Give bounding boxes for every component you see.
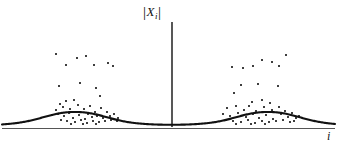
scatter-point xyxy=(252,65,254,67)
y-axis-label: |Xi| xyxy=(143,5,162,21)
scatter-point xyxy=(69,108,71,110)
scatter-point xyxy=(65,100,67,102)
scatter-point xyxy=(261,59,263,61)
scatter-point xyxy=(63,115,65,117)
scatter-point xyxy=(248,105,250,107)
scatter-point xyxy=(278,65,280,67)
scatter-point xyxy=(298,115,300,117)
scatter-point xyxy=(59,103,61,105)
scatter-point xyxy=(287,116,289,118)
scatter-point xyxy=(113,113,115,115)
scatter-point xyxy=(229,115,231,117)
scatter-point xyxy=(232,120,234,122)
scatter-point xyxy=(280,113,282,115)
scatter-point xyxy=(94,111,96,113)
scatter-point xyxy=(66,120,68,122)
scatter-point xyxy=(100,107,102,109)
scatter-point xyxy=(225,119,227,121)
scatter-point xyxy=(55,109,57,111)
scatter-point xyxy=(251,101,253,103)
scatter-point xyxy=(226,107,228,109)
scatter-point xyxy=(242,67,244,69)
scatter-point xyxy=(240,121,242,123)
scatter-point xyxy=(112,65,114,67)
scatter-point xyxy=(269,102,271,104)
scatter-point xyxy=(73,99,75,101)
scatter-point xyxy=(74,121,76,123)
scatter-point xyxy=(271,109,273,111)
envelope-path xyxy=(2,112,335,125)
scatter-point xyxy=(95,123,97,125)
scatter-point xyxy=(95,87,97,89)
scatter-point xyxy=(76,57,78,59)
scatter-point xyxy=(261,120,263,122)
scatter-point xyxy=(83,108,85,110)
scatter-point xyxy=(117,117,119,119)
scatter-point xyxy=(268,121,270,123)
scatter-point xyxy=(89,105,91,107)
scatter-point xyxy=(265,114,267,116)
scatter-point xyxy=(58,85,60,87)
scatter-point xyxy=(85,55,87,57)
scatter-point xyxy=(237,112,239,114)
scatter-point xyxy=(86,122,88,124)
scatter-point xyxy=(263,106,265,108)
scatter-point xyxy=(57,113,59,115)
scatter-point xyxy=(65,64,67,66)
scatter-point xyxy=(91,116,93,118)
scatter-point xyxy=(275,120,277,122)
scatter-point xyxy=(98,121,100,123)
scatter-point xyxy=(233,92,235,94)
baseline-envelope-curve xyxy=(2,112,335,125)
scatter-point xyxy=(272,118,274,120)
scatter-point xyxy=(109,115,111,117)
scatter-point xyxy=(106,111,108,113)
scatter-point xyxy=(261,99,263,101)
scatter-point xyxy=(84,118,86,120)
scatter-point xyxy=(247,119,249,121)
scatter-point xyxy=(70,123,72,125)
y-axis-symbol: X xyxy=(147,4,155,19)
scatter-point xyxy=(231,66,233,68)
scatter-point xyxy=(278,106,280,108)
scatter-point xyxy=(92,120,94,122)
scatter-point xyxy=(79,82,81,84)
scatter-point xyxy=(295,117,297,119)
plot-canvas xyxy=(0,0,343,147)
x-axis-label: i xyxy=(327,130,330,142)
scatter-point xyxy=(289,121,291,123)
scatter-point xyxy=(222,113,224,115)
scatter-point xyxy=(240,84,242,86)
scatter-point xyxy=(271,61,273,63)
scatter-point xyxy=(235,105,237,107)
scatter-point xyxy=(99,95,101,97)
scatter-point xyxy=(104,120,106,122)
scatter-point xyxy=(77,104,79,106)
scatter-point xyxy=(62,106,64,108)
scatter-point xyxy=(93,64,95,66)
scatter-point xyxy=(60,119,62,121)
scatter-point xyxy=(257,83,259,85)
scatter-point xyxy=(245,116,247,118)
scatter-point xyxy=(291,112,293,114)
scatter-point xyxy=(284,110,286,112)
scatter-point xyxy=(72,117,74,119)
scatter-point xyxy=(87,113,89,115)
scatter-point xyxy=(235,123,237,125)
scatter-point xyxy=(255,110,257,112)
scatter-point xyxy=(102,117,104,119)
scatter-point xyxy=(82,123,84,125)
scatter-point xyxy=(68,112,70,114)
scatter-point xyxy=(55,53,57,55)
scatter-point xyxy=(252,113,254,115)
scatter-point xyxy=(107,62,109,64)
scatter-point xyxy=(258,117,260,119)
scatter-point xyxy=(51,114,53,116)
scatter-point xyxy=(250,123,252,125)
scatter-point xyxy=(277,85,279,87)
scatter-point xyxy=(282,119,284,121)
scatter-point xyxy=(110,119,112,121)
scatter-point xyxy=(78,114,80,116)
y-axis-bar-right: | xyxy=(158,4,162,20)
scatter-point xyxy=(254,122,256,124)
